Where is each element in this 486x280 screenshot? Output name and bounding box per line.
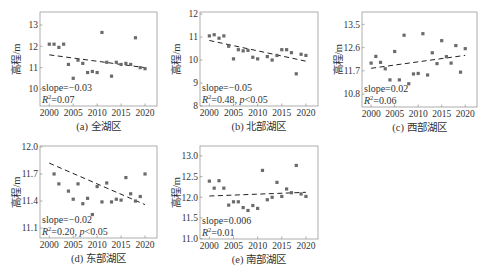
r2-annotation: R2=0.48, p<0.05 xyxy=(201,93,268,105)
x-tick-label: 2010 xyxy=(88,108,107,118)
data-point xyxy=(72,198,75,201)
data-point xyxy=(208,180,211,183)
panel-e: 11.011.512.012.513.020002005201020152020… xyxy=(170,146,318,266)
data-point xyxy=(67,189,70,192)
data-point xyxy=(398,78,401,81)
x-tick-label: 2020 xyxy=(136,240,155,250)
r2-annotation: R2=0.07 xyxy=(41,93,75,105)
x-tick-label: 2015 xyxy=(112,108,131,118)
data-point xyxy=(48,43,51,46)
data-point xyxy=(110,75,113,78)
data-point xyxy=(227,204,230,207)
data-point xyxy=(119,63,122,66)
y-tick-label: 11.0 xyxy=(182,234,199,244)
x-tick-label: 2010 xyxy=(88,240,107,250)
data-point xyxy=(256,57,259,60)
y-tick-label: 13 xyxy=(29,20,39,30)
x-tick-label: 2020 xyxy=(296,108,315,118)
x-tick-label: 2020 xyxy=(136,108,155,118)
y-tick-label: 11.7 xyxy=(344,66,361,76)
data-point xyxy=(57,182,60,185)
data-point xyxy=(81,62,84,65)
data-point xyxy=(62,43,65,46)
data-point xyxy=(134,199,137,202)
data-point xyxy=(285,187,288,190)
y-tick-label: 11.7 xyxy=(22,169,39,179)
data-point xyxy=(100,200,103,203)
panel-b: 8910111220002005201020152020高程/m(b) 北部湖区… xyxy=(170,9,318,133)
r2-annotation: R2=0.06 xyxy=(363,94,397,106)
y-tick-label: 11.4 xyxy=(22,196,39,206)
data-point xyxy=(280,48,283,51)
data-point xyxy=(285,48,288,51)
data-point xyxy=(450,62,453,65)
data-point xyxy=(232,200,235,203)
x-tick-label: 2000 xyxy=(200,241,219,251)
panel-d: 11.111.411.712.020002005201020152020高程/m… xyxy=(10,142,157,265)
data-point xyxy=(261,169,264,172)
data-point xyxy=(454,44,457,47)
data-point xyxy=(256,207,259,210)
y-tick-label: 11 xyxy=(29,63,38,73)
data-point xyxy=(81,202,84,205)
data-point xyxy=(280,195,283,198)
x-tick-label: 2015 xyxy=(272,241,291,251)
data-point xyxy=(237,200,240,203)
data-point xyxy=(129,63,132,66)
y-axis-label: 高程/m xyxy=(10,176,22,207)
panel-caption: (a) 全湖区 xyxy=(76,120,120,133)
y-tick-label: 11.5 xyxy=(182,213,199,223)
data-point xyxy=(242,49,245,52)
x-tick-label: 2005 xyxy=(385,109,404,119)
data-point xyxy=(275,54,278,57)
x-tick-label: 2020 xyxy=(456,109,475,119)
data-point xyxy=(217,179,220,182)
y-tick-label: 9 xyxy=(193,78,198,88)
y-tick-label: 12 xyxy=(189,9,199,19)
data-point xyxy=(213,33,216,36)
data-point xyxy=(139,66,142,69)
data-point xyxy=(290,191,293,194)
y-tick-label: 10 xyxy=(29,84,39,94)
data-point xyxy=(295,72,298,75)
data-point xyxy=(271,58,274,61)
data-point xyxy=(246,209,249,212)
y-tick-label: 13.0 xyxy=(181,151,198,161)
y-tick-label: 8 xyxy=(193,101,198,111)
data-point xyxy=(213,187,216,190)
x-tick-label: 2000 xyxy=(200,108,219,118)
data-point xyxy=(431,51,434,54)
data-point xyxy=(304,54,307,57)
data-point xyxy=(459,71,462,74)
data-point xyxy=(421,32,424,35)
x-tick-label: 2010 xyxy=(248,241,267,251)
data-point xyxy=(119,199,122,202)
x-tick-label: 2005 xyxy=(64,240,83,250)
x-tick-label: 2000 xyxy=(362,109,381,119)
x-tick-label: 2015 xyxy=(112,240,131,250)
x-tick-label: 2005 xyxy=(64,108,83,118)
data-point xyxy=(275,181,278,184)
r2-annotation: R2=0.01 xyxy=(201,226,235,238)
r2-annotation: R2=0.20, p<0.05 xyxy=(41,225,108,237)
panel-caption: (b) 北部湖区 xyxy=(232,120,287,133)
slope-annotation: slope=−0.02 xyxy=(42,214,92,225)
y-axis-label: 高程/m xyxy=(170,43,182,74)
data-point xyxy=(304,195,307,198)
figure: 1011121320002005201020152020高程/m(a) 全湖区s… xyxy=(0,0,486,280)
data-point xyxy=(300,53,303,56)
data-point xyxy=(412,72,415,75)
panel-caption: (c) 西部湖区 xyxy=(392,121,446,134)
data-point xyxy=(76,182,79,185)
y-tick-label: 10.8 xyxy=(343,89,360,99)
data-point xyxy=(232,57,235,60)
data-point xyxy=(222,187,225,190)
data-point xyxy=(57,46,60,49)
x-tick-label: 2010 xyxy=(409,109,428,119)
y-tick-label: 12 xyxy=(29,42,39,52)
data-point xyxy=(440,39,443,42)
data-point xyxy=(100,31,103,34)
panel-caption: (e) 南部湖区 xyxy=(232,253,286,266)
data-point xyxy=(445,55,448,58)
data-point xyxy=(251,204,254,207)
